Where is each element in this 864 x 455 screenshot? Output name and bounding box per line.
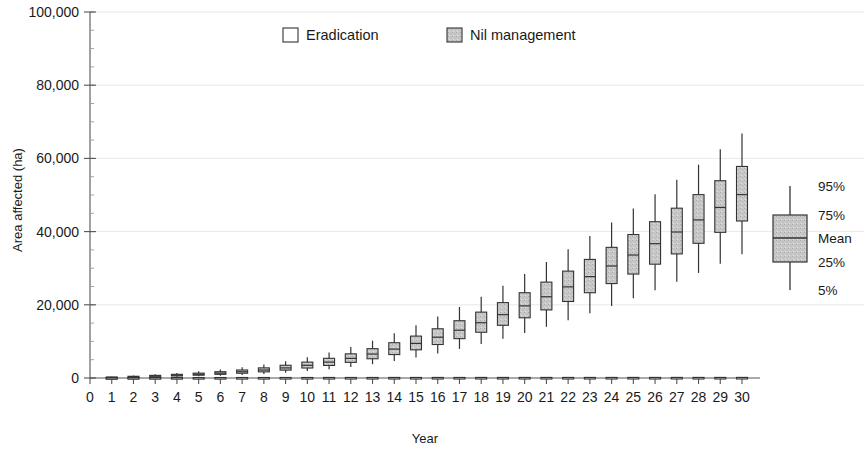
box-plot-eradication-year-27 — [671, 377, 682, 379]
x-tick-label: 6 — [217, 389, 225, 405]
x-tick-label: 3 — [151, 389, 159, 405]
x-tick-label: 11 — [322, 389, 337, 405]
x-tick-label: 22 — [560, 389, 576, 405]
x-tick-label: 4 — [173, 389, 181, 405]
box-plot-eradication-year-21 — [541, 377, 552, 379]
x-tick-label: 1 — [108, 389, 116, 405]
box-plot-eradication-year-30 — [737, 377, 748, 379]
box-plot-eradication-year-18 — [476, 377, 487, 379]
key-label-mean: Mean — [818, 231, 852, 246]
legend-swatch — [283, 28, 298, 42]
box-plot-eradication-year-8 — [258, 377, 269, 379]
box-plot-eradication-year-13 — [367, 377, 378, 379]
box-plot-eradication-year-20 — [519, 377, 530, 379]
x-tick-label: 28 — [691, 389, 707, 405]
x-tick-label: 25 — [626, 389, 642, 405]
legend-label: Nil management — [470, 27, 576, 43]
box-plot-eradication-year-2 — [128, 377, 139, 379]
x-tick-label: 17 — [452, 389, 468, 405]
x-tick-label: 20 — [517, 389, 533, 405]
x-tick-label: 30 — [734, 389, 750, 405]
box-plot-eradication-year-6 — [215, 377, 226, 379]
box-plot-eradication-year-1 — [106, 377, 117, 379]
x-tick-label: 2 — [130, 389, 138, 405]
box-plot-eradication-year-29 — [715, 377, 726, 379]
x-tick-label: 14 — [386, 389, 402, 405]
x-tick-label: 5 — [195, 389, 203, 405]
box-plot-eradication-year-5 — [193, 377, 204, 379]
y-tick-label: 40,000 — [36, 224, 79, 240]
legend-swatch — [447, 28, 462, 42]
x-tick-label: 21 — [539, 389, 555, 405]
x-tick-label: 27 — [669, 389, 685, 405]
y-axis-title: Area affected (ha) — [10, 148, 25, 252]
x-tick-label: 12 — [343, 389, 359, 405]
x-tick-label: 19 — [495, 389, 511, 405]
box-plot-eradication-year-25 — [628, 377, 639, 379]
box-plot-eradication-year-26 — [650, 377, 661, 379]
box-plot-eradication-year-24 — [606, 377, 617, 379]
x-axis: 0123456789101112131415161718192021222324… — [86, 378, 760, 405]
y-tick-label: 80,000 — [36, 77, 79, 93]
box-plot-eradication-year-16 — [432, 377, 443, 379]
box-plot-eradication-year-10 — [302, 377, 313, 379]
box-plot-eradication-year-17 — [454, 377, 465, 379]
chart-canvas: 020,00040,00060,00080,000100,000 0123456… — [0, 0, 864, 455]
y-tick-label: 100,000 — [28, 4, 79, 20]
y-tick-label: 0 — [71, 370, 79, 386]
x-tick-label: 16 — [430, 389, 446, 405]
x-tick-label: 18 — [473, 389, 489, 405]
boxplot-chart: 020,00040,00060,00080,000100,000 0123456… — [0, 0, 864, 455]
key-label-75pct: 75% — [818, 208, 845, 223]
box-plot-eradication-year-22 — [563, 377, 574, 379]
key-label-25pct: 25% — [818, 255, 845, 270]
box-plot-eradication-year-23 — [584, 377, 595, 379]
x-tick-label: 13 — [365, 389, 381, 405]
x-tick-label: 9 — [282, 389, 290, 405]
x-tick-label: 29 — [712, 389, 728, 405]
x-tick-label: 0 — [86, 389, 94, 405]
box-plot-eradication-year-3 — [150, 377, 161, 379]
box-plot-eradication-year-15 — [411, 377, 422, 379]
x-tick-label: 10 — [300, 389, 316, 405]
box-plot-eradication-year-12 — [345, 377, 356, 379]
x-tick-label: 7 — [238, 389, 246, 405]
x-tick-label: 15 — [408, 389, 424, 405]
box-plot-eradication-year-4 — [171, 377, 182, 379]
boxplot-key: 95%75%Mean25%5% — [773, 179, 852, 298]
y-tick-label: 60,000 — [36, 150, 79, 166]
box-plot-eradication-year-11 — [324, 377, 335, 379]
box-plot-eradication-year-9 — [280, 377, 291, 379]
x-tick-label: 24 — [604, 389, 620, 405]
x-tick-label: 8 — [260, 389, 268, 405]
y-axis: 020,00040,00060,00080,000100,000 — [28, 4, 96, 386]
x-tick-label: 23 — [582, 389, 598, 405]
box-plot-eradication-year-14 — [389, 377, 400, 379]
legend-item-eradication[interactable]: Eradication — [283, 27, 379, 43]
x-tick-label: 26 — [647, 389, 663, 405]
box-plot-eradication-year-19 — [497, 377, 508, 379]
y-tick-label: 20,000 — [36, 297, 79, 313]
key-label-95pct: 95% — [818, 179, 845, 194]
key-label-5pct: 5% — [818, 283, 838, 298]
x-axis-title: Year — [412, 431, 439, 446]
box-plot-eradication-year-7 — [237, 377, 248, 379]
box-plot-eradication-year-28 — [693, 377, 704, 379]
legend-label: Eradication — [306, 27, 379, 43]
